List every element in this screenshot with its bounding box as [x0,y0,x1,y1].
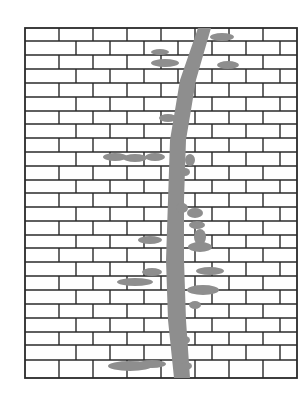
vine-leaf [159,114,177,122]
vine-leaf [217,61,239,69]
vine-leaf [151,59,179,67]
vine-leaf [145,153,165,161]
vine-leaf [138,236,162,244]
vine-leaf [142,268,162,276]
vine-leaf [151,49,169,55]
vine-leaf [189,221,205,229]
vine-leaf [210,33,234,41]
vine-leaf [189,301,201,309]
vine-leaf [187,285,219,295]
vine-leaf [196,267,224,275]
vine-leaf [117,278,153,286]
vine-trunk [166,28,211,378]
vine-leaf [180,336,190,344]
vine-leaf [176,203,188,213]
vine-leaf [123,154,147,162]
vine-leaf [187,208,203,218]
brick-wall-drawing [0,0,304,406]
vine-leaf [138,360,166,368]
vine-leaf [180,362,192,370]
vine-leaf [180,168,190,176]
vine-leaf [188,242,212,252]
vine-leaf [185,154,195,166]
brick-wall-illustration [0,0,304,406]
